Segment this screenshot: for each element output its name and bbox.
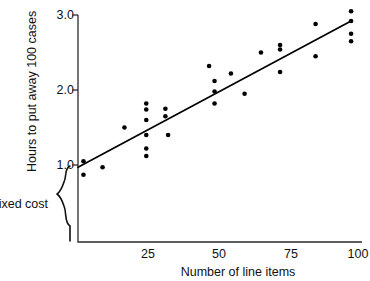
fixed-cost-label: Fixed cost: [0, 197, 49, 211]
data-point: [242, 91, 247, 96]
data-point: [278, 70, 283, 75]
data-point: [144, 101, 149, 106]
y-tick-label-2: 2.0: [57, 83, 74, 97]
data-point: [207, 64, 212, 69]
data-point: [81, 172, 86, 177]
x-tick-label-100: 100: [348, 247, 369, 261]
x-axis-title: Number of line items: [181, 265, 296, 279]
data-point: [166, 133, 171, 138]
scatter-chart: Hours to put away 100 cases 3.0 2.0 1.0 …: [0, 0, 370, 281]
y-axis-title: Hours to put away 100 cases: [25, 11, 39, 172]
data-point: [212, 101, 217, 106]
chart-svg: Hours to put away 100 cases 3.0 2.0 1.0 …: [0, 0, 370, 281]
data-point: [212, 79, 217, 84]
y-tick-label-3: 3.0: [57, 8, 74, 22]
data-point: [81, 159, 86, 164]
x-tick-label-75: 75: [284, 247, 298, 261]
data-point: [229, 71, 234, 76]
fixed-cost-brace-icon: [57, 166, 70, 241]
data-point: [212, 89, 217, 94]
y-tick-label-1: 1.0: [57, 158, 74, 172]
data-point: [278, 43, 283, 48]
data-point: [278, 47, 283, 52]
data-point: [313, 54, 318, 59]
data-point: [100, 165, 105, 170]
data-point: [349, 31, 354, 36]
regression-line: [78, 21, 351, 167]
x-tick-label-50: 50: [212, 247, 226, 261]
axis-lines: [78, 15, 362, 242]
data-point: [144, 146, 149, 151]
data-point: [122, 125, 127, 130]
data-point: [349, 39, 354, 44]
data-point: [259, 50, 264, 55]
data-point: [349, 9, 354, 14]
data-point: [163, 106, 168, 111]
data-point: [144, 107, 149, 112]
data-point: [144, 154, 149, 159]
x-tick-label-25: 25: [141, 247, 155, 261]
data-point: [349, 19, 354, 24]
data-point: [144, 118, 149, 123]
data-point: [144, 133, 149, 138]
data-point: [163, 114, 168, 119]
data-point: [313, 22, 318, 27]
